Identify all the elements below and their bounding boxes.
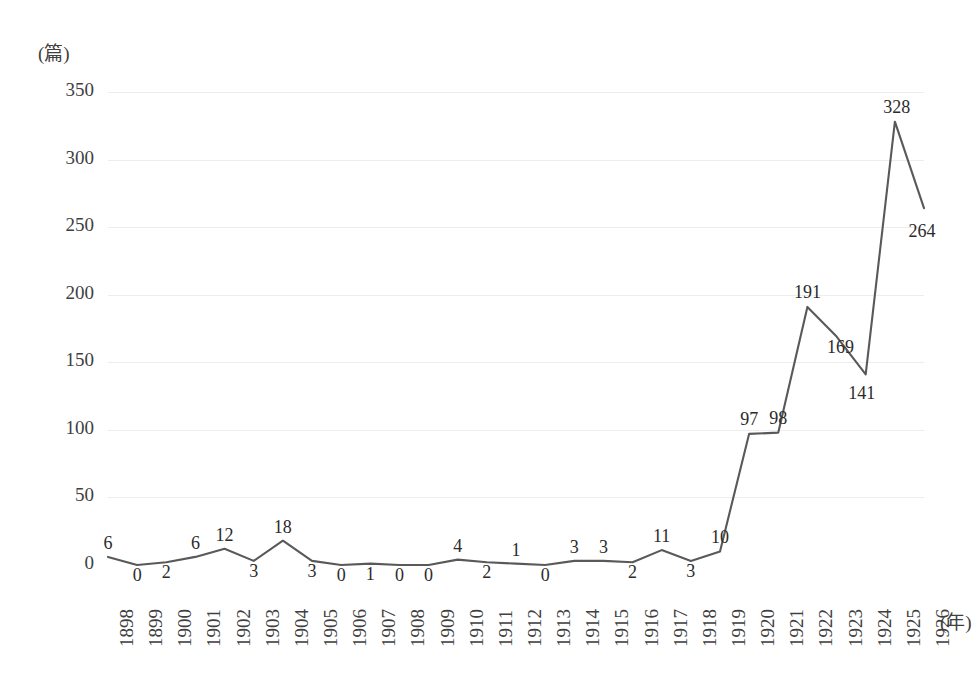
data-point-label: 10 [711, 527, 729, 548]
data-point-label: 98 [769, 408, 787, 429]
x-axis-tick-label: 1924 [874, 609, 896, 647]
x-axis-tick-label: 1906 [349, 609, 371, 647]
x-axis-tick-label: 1922 [815, 609, 837, 647]
x-axis-tick-label: 1900 [174, 609, 196, 647]
x-axis-tick-label: 1920 [757, 609, 779, 647]
data-point-label: 169 [827, 337, 854, 358]
x-axis-tick-label: 1918 [699, 609, 721, 647]
x-axis-tick-label: 1902 [233, 609, 255, 647]
data-point-label: 264 [909, 221, 936, 242]
data-point-label: 1 [512, 540, 521, 561]
data-point-label: 12 [216, 525, 234, 546]
x-axis-tick-label: 1911 [495, 610, 517, 647]
data-point-label: 3 [599, 537, 608, 558]
data-point-label: 3 [570, 537, 579, 558]
data-point-label: 3 [308, 561, 317, 582]
line-chart: (篇) 050100150200250300350 60261231830100… [0, 0, 975, 678]
data-point-label: 18 [274, 517, 292, 538]
x-axis-tick-label: 1910 [466, 609, 488, 647]
data-point-label: 4 [453, 536, 462, 557]
x-axis-tick-label: 1923 [845, 609, 867, 647]
x-axis-tick-label: 1912 [524, 609, 546, 647]
data-point-label: 0 [541, 565, 550, 586]
data-point-label: 2 [482, 562, 491, 583]
x-axis-tick-label: 1917 [670, 609, 692, 647]
x-axis-unit-label: (年) [940, 607, 972, 634]
data-point-label: 3 [686, 561, 695, 582]
data-point-label: 97 [740, 409, 758, 430]
x-axis-tick-label: 1903 [262, 609, 284, 647]
x-axis-tick-label: 1925 [903, 609, 925, 647]
x-axis-tick-label: 1898 [116, 609, 138, 647]
data-point-label: 11 [653, 526, 670, 547]
data-point-label: 3 [249, 561, 258, 582]
x-axis-tick-label: 1908 [407, 609, 429, 647]
data-point-label: 1 [366, 564, 375, 585]
data-point-label: 0 [133, 565, 142, 586]
data-point-label: 0 [424, 565, 433, 586]
series-polyline [108, 122, 924, 565]
x-axis-tick-label: 1914 [582, 609, 604, 647]
x-axis-tick-label: 1909 [437, 609, 459, 647]
x-axis-tick-label: 1904 [291, 609, 313, 647]
data-point-label: 6 [191, 533, 200, 554]
data-point-label: 0 [337, 565, 346, 586]
x-axis-tick-label: 1899 [145, 609, 167, 647]
x-axis-tick-label: 1916 [641, 609, 663, 647]
x-axis-tick-label: 1905 [320, 609, 342, 647]
data-point-label: 2 [628, 562, 637, 583]
x-axis-tick-label: 1913 [553, 609, 575, 647]
data-point-label: 191 [794, 282, 821, 303]
x-axis-tick-label: 1921 [786, 609, 808, 647]
x-axis-tick-label: 1915 [611, 609, 633, 647]
data-point-label: 328 [883, 97, 910, 118]
x-axis-tick-label: 1907 [378, 609, 400, 647]
data-point-label: 0 [395, 565, 404, 586]
data-point-label: 6 [104, 533, 113, 554]
x-axis-tick-label: 1919 [728, 609, 750, 647]
data-point-label: 2 [162, 562, 171, 583]
x-axis-tick-label: 1901 [203, 609, 225, 647]
data-point-label: 141 [848, 383, 875, 404]
